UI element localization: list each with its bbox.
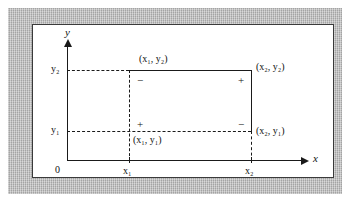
figure-container: y x 0 y₂ y₁ x₁ x₂ (x₁, y₂) (x₂, y₂) (x₁,… — [0, 0, 350, 209]
corner-label-top-left: (x₁, y₂) — [139, 54, 168, 64]
guide-dash-x1 — [129, 70, 130, 161]
guide-dash-y1 — [67, 131, 251, 132]
guide-dash-y2 — [67, 70, 129, 71]
y-axis-arrowhead — [64, 39, 72, 47]
x2-tick-label: x₂ — [245, 166, 254, 176]
decorative-gray-frame: y x 0 y₂ y₁ x₁ x₂ (x₁, y₂) (x₂, y₂) (x₁,… — [8, 8, 342, 194]
x-axis-label: x — [313, 153, 318, 164]
corner-label-top-right: (x₂, y₂) — [256, 62, 285, 72]
corner-sign-top-left: − — [137, 75, 143, 86]
x-axis-line — [67, 160, 302, 161]
rect-right-edge — [251, 70, 252, 132]
y2-tick-label: y₂ — [51, 64, 60, 74]
y-axis-line — [67, 47, 68, 161]
figure-plot-area: y x 0 y₂ y₁ x₁ x₂ (x₁, y₂) (x₂, y₂) (x₁,… — [32, 24, 334, 178]
corner-sign-bottom-left: + — [137, 119, 143, 130]
x1-tick-label: x₁ — [123, 166, 132, 176]
origin-label: 0 — [55, 165, 60, 175]
rect-top-edge — [129, 70, 252, 71]
y-axis-label: y — [65, 27, 70, 38]
x1-tick-mark — [129, 157, 130, 163]
corner-label-bottom-right: (x₂, y₁) — [256, 126, 285, 136]
corner-sign-top-right: + — [238, 75, 244, 86]
y1-tick-label: y₁ — [51, 125, 60, 135]
corner-sign-bottom-right: − — [238, 119, 244, 130]
x-axis-arrowhead — [301, 157, 309, 165]
corner-label-bottom-left: (x₁, y₁) — [133, 135, 162, 145]
x2-tick-mark — [251, 157, 252, 163]
